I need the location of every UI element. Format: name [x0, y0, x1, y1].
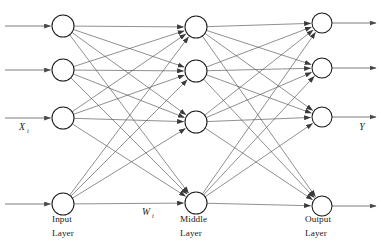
label-output-layer: Output Layer	[305, 214, 331, 238]
neuron-input-4	[52, 193, 74, 215]
label-middle-layer: Middle Layer	[180, 214, 207, 238]
output-layer-label-line2: Layer	[305, 228, 327, 238]
neuron-output-1	[312, 13, 332, 33]
edge-middle-3-to-output-4	[205, 128, 312, 200]
edge-input-3-to-middle-1	[72, 34, 186, 112]
edge-middle-2-to-output-2	[207, 68, 311, 70]
label-input-layer: Input Layer	[52, 214, 74, 238]
neuron-output-3	[312, 107, 332, 127]
neural-network-diagram: X i W i Y Input Layer Middle Layer Outpu…	[0, 0, 381, 250]
middle-layer-label-line2: Layer	[180, 228, 202, 238]
edge-input-4-to-middle-4	[74, 203, 184, 204]
edge-middle-1-to-output-1	[207, 23, 311, 26]
input-layer-label-line2: Layer	[52, 228, 74, 238]
neuron-input-2	[52, 59, 74, 81]
edge-middle-4-to-output-4	[207, 203, 311, 205]
edge-input-4-to-middle-3	[72, 129, 185, 199]
edge-input-3-to-middle-3	[74, 118, 184, 121]
neuron-middle-1	[185, 16, 207, 38]
output-layer-label-line1: Output	[305, 214, 331, 224]
edge-input-1-to-middle-1	[74, 26, 184, 27]
neuron-output-2	[312, 58, 332, 78]
edge-middle-3-to-output-1	[205, 30, 313, 115]
edge-input-1-to-middle-3	[72, 32, 186, 114]
neuron-input-1	[52, 15, 74, 37]
neuron-middle-2	[185, 60, 207, 82]
input-layer-label-line1: Input	[52, 214, 72, 224]
weight-label: W	[142, 206, 151, 217]
edge-input-2-to-middle-2	[74, 70, 184, 71]
edge-input-4-to-middle-1	[70, 37, 189, 195]
label-weight: W i	[142, 206, 154, 219]
edge-input-1-to-middle-4	[70, 35, 189, 193]
input-signal-subscript: i	[27, 127, 29, 134]
edge-middle-1-to-output-3	[205, 33, 313, 110]
edge-middle-3-to-output-2	[206, 73, 311, 118]
neuron-input-3	[52, 107, 74, 129]
neuron-middle-3	[185, 111, 207, 133]
edge-middle-4-to-output-3	[205, 123, 312, 196]
neuron-nodes	[52, 13, 332, 216]
edge-input-3-to-middle-2	[73, 75, 184, 114]
middle-layer-label-line1: Middle	[180, 214, 207, 224]
neuron-middle-4	[185, 192, 207, 214]
weight-subscript: i	[152, 212, 154, 219]
edge-middle-3-to-output-3	[207, 117, 311, 121]
edge-input-2-to-middle-4	[71, 78, 187, 194]
neuron-output-4	[312, 196, 332, 216]
network-canvas: X i W i Y Input Layer Middle Layer Outpu…	[0, 0, 381, 250]
edge-middle-1-to-output-2	[206, 30, 311, 64]
edge-middle-4-to-output-1	[202, 32, 315, 194]
label-input-signal: X i	[18, 121, 29, 134]
edge-input-3-to-middle-4	[72, 124, 185, 196]
input-signal-label: X	[18, 121, 26, 132]
edge-middle-2-to-output-3	[206, 75, 311, 113]
output-signal-label: Y	[359, 121, 366, 132]
edge-input-2-to-middle-3	[73, 74, 184, 117]
